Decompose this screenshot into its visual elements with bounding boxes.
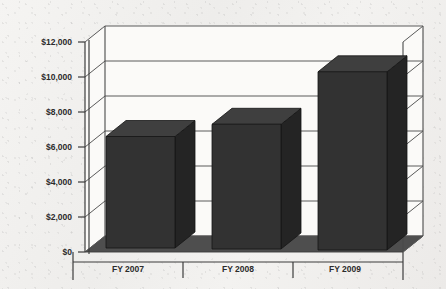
bar-fy-2009-front: [318, 72, 387, 250]
chart-plot-area: $12,000 $10,000 $8,000 $6,000 $4,000 $2,…: [0, 0, 446, 289]
bar-fy-2008[interactable]: [212, 108, 301, 249]
bar-fy-2007-side: [175, 121, 195, 249]
xtick-label-fy-2008: FY 2008: [222, 264, 254, 274]
bar-fy-2009[interactable]: [318, 56, 407, 250]
bar-fy-2008-side: [281, 108, 301, 249]
ytick-label-4000: $4,000: [46, 177, 72, 187]
ytick-label-6000: $6,000: [46, 142, 72, 152]
ytick-label-10000: $10,000: [41, 72, 72, 82]
bar-fy-2007[interactable]: [106, 121, 195, 249]
x-axis-category-labels: FY 2007 FY 2008 FY 2009: [112, 264, 361, 274]
bar-fy-2008-front: [212, 124, 281, 249]
bar-chart-image: $12,000 $10,000 $8,000 $6,000 $4,000 $2,…: [0, 0, 446, 289]
bar-fy-2007-front: [106, 137, 175, 249]
xtick-label-fy-2009: FY 2009: [329, 264, 361, 274]
ytick-label-2000: $2,000: [46, 212, 72, 222]
ytick-label-0: $0: [63, 247, 73, 257]
ytick-label-12000: $12,000: [41, 37, 72, 47]
bar-fy-2009-side: [387, 56, 407, 250]
xtick-label-fy-2007: FY 2007: [112, 264, 144, 274]
y-axis-tick-labels: $12,000 $10,000 $8,000 $6,000 $4,000 $2,…: [41, 37, 72, 257]
ytick-label-8000: $8,000: [46, 107, 72, 117]
